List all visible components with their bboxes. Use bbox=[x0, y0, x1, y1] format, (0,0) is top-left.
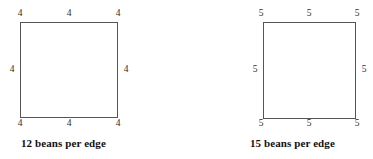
left-square-outline bbox=[20, 22, 118, 118]
right-square-label-mid-right: 5 bbox=[358, 64, 370, 74]
left-square-group: 4 4 4 4 4 4 4 4 12 beans per edge bbox=[0, 0, 186, 159]
left-square-label-top-left: 4 bbox=[14, 8, 26, 18]
left-square-label-bottom-right: 4 bbox=[112, 118, 124, 128]
right-square-label-bottom-right: 5 bbox=[351, 118, 363, 128]
right-square-group: 5 5 5 5 5 5 5 5 15 beans per edge bbox=[186, 0, 373, 159]
right-square-label-top-left: 5 bbox=[255, 8, 267, 18]
left-square-label-top-right: 4 bbox=[112, 8, 124, 18]
left-square-caption: 12 beans per edge bbox=[21, 137, 106, 150]
right-square-outline bbox=[263, 22, 356, 119]
right-square-label-top-mid: 5 bbox=[303, 8, 315, 18]
left-square-label-bottom-mid: 4 bbox=[63, 118, 75, 128]
left-square-label-bottom-left: 4 bbox=[14, 118, 26, 128]
right-square-caption: 15 beans per edge bbox=[250, 137, 335, 150]
right-square-label-bottom-mid: 5 bbox=[303, 118, 315, 128]
left-square-label-top-mid: 4 bbox=[63, 8, 75, 18]
right-square-label-top-right: 5 bbox=[351, 8, 363, 18]
left-square-label-mid-right: 4 bbox=[120, 64, 132, 74]
right-square-label-bottom-left: 5 bbox=[255, 118, 267, 128]
left-square-label-mid-left: 4 bbox=[6, 64, 18, 74]
right-square-label-mid-left: 5 bbox=[249, 64, 261, 74]
beans-per-edge-figure: 4 4 4 4 4 4 4 4 12 beans per edge 5 5 5 … bbox=[0, 0, 373, 159]
